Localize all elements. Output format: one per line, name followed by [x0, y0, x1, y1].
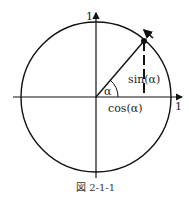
x-axis-label: 1 [175, 100, 182, 113]
figure-caption: 図 2-1-1 [76, 182, 115, 193]
angle-label: α [104, 85, 112, 98]
unit-circle-diagram: 1 1 α sin(α) cos(α) 図 2-1-1 [0, 0, 189, 206]
cos-label: cos(α) [108, 102, 142, 115]
direction-arrow-icon [144, 30, 153, 38]
y-axis-label: 1 [86, 10, 93, 23]
point-on-circle [141, 38, 147, 44]
sin-label: sin(α) [128, 73, 160, 86]
